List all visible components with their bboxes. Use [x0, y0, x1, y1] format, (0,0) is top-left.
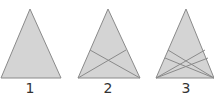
triangle-label-1: 1: [20, 80, 40, 96]
triangle-1: [1, 9, 61, 78]
triangle-3: [156, 9, 214, 78]
triangle-2: [78, 9, 140, 78]
triangle-label-3: 3: [176, 80, 196, 96]
triangle-label-2: 2: [98, 80, 118, 96]
